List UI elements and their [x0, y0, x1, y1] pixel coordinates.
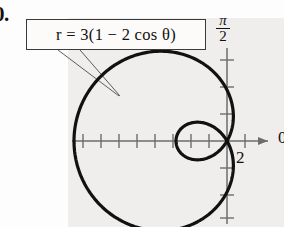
- x-axis-label-zero: 0: [278, 128, 284, 148]
- y-axis-label: π 2: [210, 14, 236, 44]
- y-axis-label-denominator: 2: [210, 29, 236, 44]
- polar-graph-figure: 0.: [0, 0, 284, 227]
- equation-callout-box: r = 3(1 − 2 cos θ): [26, 19, 206, 50]
- x-tick-label-2: 2: [236, 148, 245, 168]
- y-axis-label-numerator: π: [210, 14, 236, 27]
- pole-node: [225, 139, 229, 143]
- equation-text: r = 3(1 − 2 cos θ): [56, 25, 176, 45]
